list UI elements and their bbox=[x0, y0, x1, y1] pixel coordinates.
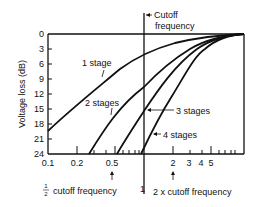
cutoff-label-line1: Cutoff bbox=[154, 10, 178, 20]
svg-text:9: 9 bbox=[39, 74, 44, 84]
arrow-4-stages-icon bbox=[153, 132, 157, 136]
x-tick-labels: 0.1 0.2 0.5 2 3 4 5 bbox=[42, 158, 214, 168]
svg-text:0.5: 0.5 bbox=[106, 158, 119, 168]
curves bbox=[48, 34, 244, 154]
arrow-half-cutoff-icon bbox=[110, 171, 114, 175]
svg-text:18: 18 bbox=[34, 119, 44, 129]
arrow-double-cutoff-icon bbox=[171, 171, 175, 175]
half-cutoff-label: cutoff frequency bbox=[53, 186, 117, 196]
svg-text:21: 21 bbox=[34, 134, 44, 144]
svg-text:3: 3 bbox=[39, 44, 44, 54]
svg-text:5: 5 bbox=[208, 158, 213, 168]
one-label: 1 bbox=[140, 184, 145, 194]
svg-text:0.1: 0.1 bbox=[42, 158, 55, 168]
svg-text:0: 0 bbox=[39, 29, 44, 39]
svg-text:0.2: 0.2 bbox=[71, 158, 84, 168]
x-ticks bbox=[77, 146, 235, 154]
y-tick-labels: 0 3 6 9 12 15 18 21 24 bbox=[34, 29, 44, 159]
curve-1-stage bbox=[48, 34, 244, 131]
label-2-stages: 2 stages bbox=[85, 98, 120, 108]
label-4-stages: 4 stages bbox=[163, 130, 198, 140]
svg-text:4: 4 bbox=[198, 158, 203, 168]
svg-text:15: 15 bbox=[34, 104, 44, 114]
y-axis-label: Voltage loss (dB) bbox=[17, 60, 27, 128]
double-cutoff-label: 2 x cutoff frequency bbox=[153, 187, 232, 197]
label-3-stages: 3 stages bbox=[176, 106, 211, 116]
svg-text:12: 12 bbox=[34, 89, 44, 99]
chart: 0 3 6 9 12 15 18 21 24 Voltage loss (dB)… bbox=[0, 0, 256, 207]
svg-text:3: 3 bbox=[186, 158, 191, 168]
arrow-3-stages-icon bbox=[147, 108, 151, 112]
svg-text:2: 2 bbox=[170, 158, 175, 168]
cutoff-label-line2: frequency bbox=[155, 21, 195, 31]
leader-2-stages bbox=[111, 108, 112, 115]
leader-1-stage bbox=[102, 70, 104, 77]
half-fraction-den: 2 bbox=[44, 191, 48, 197]
label-1-stage: 1 stage bbox=[82, 58, 112, 68]
half-fraction-num: 1 bbox=[44, 183, 48, 189]
svg-text:6: 6 bbox=[39, 59, 44, 69]
arrow-cutoff-icon bbox=[146, 13, 150, 17]
